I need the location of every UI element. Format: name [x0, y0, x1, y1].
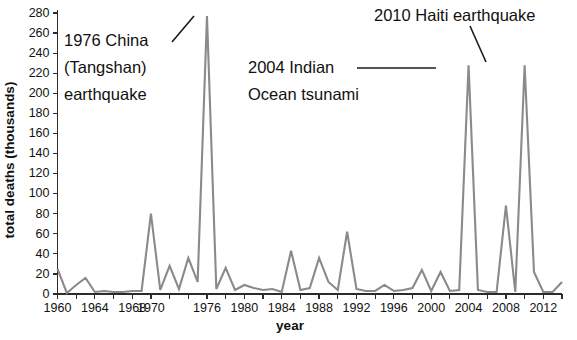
- x-axis-tick-label: 1976: [193, 301, 221, 315]
- x-axis-tick-label: 1992: [343, 301, 371, 315]
- annotation-china-1976: 1976 China (Tangshan) earthquake: [64, 16, 194, 103]
- y-axis-title: total deaths (thousands): [2, 82, 17, 239]
- x-axis-tick-label: 1980: [230, 301, 258, 315]
- y-axis-tick-label: 100: [29, 186, 50, 200]
- annotation-haiti-leader-line: [470, 26, 486, 62]
- annotation-haiti-2010: 2010 Haiti earthquake: [374, 6, 535, 62]
- x-axis-tick-label: 1960: [44, 301, 72, 315]
- x-axis-tick-label: 2012: [529, 301, 557, 315]
- y-axis-tick-label: 140: [29, 146, 50, 160]
- y-axis-tick-label: 60: [36, 227, 50, 241]
- x-axis-title: year: [276, 318, 305, 333]
- y-axis-tick-label: 240: [29, 46, 50, 60]
- y-axis-tick-label: 120: [29, 166, 50, 180]
- x-axis-tick-label: 1984: [268, 301, 296, 315]
- annotation-haiti-line-1: 2010 Haiti earthquake: [374, 6, 535, 24]
- y-axis-tick-label: 80: [36, 207, 50, 221]
- y-axis-tick-label: 180: [29, 106, 50, 120]
- annotation-china-leader-line: [172, 16, 194, 42]
- annotation-china-line-3: earthquake: [64, 85, 147, 103]
- annotation-china-line-1: 1976 China: [64, 31, 149, 49]
- x-axis-tick-label: 1964: [81, 301, 109, 315]
- annotation-tsunami-line-1: 2004 Indian: [248, 58, 334, 76]
- y-axis-tick-label: 200: [29, 86, 50, 100]
- y-axis-tick-label: 260: [29, 26, 50, 40]
- x-axis-tick-label: 2000: [417, 301, 445, 315]
- y-axis-tick-label: 220: [29, 66, 50, 80]
- deaths-by-year-line-chart: 020406080100120140160180200220240260280 …: [0, 0, 577, 340]
- x-axis-tick-label: 2004: [455, 301, 483, 315]
- y-axis-tick-label: 40: [36, 247, 50, 261]
- chart-figure: 020406080100120140160180200220240260280 …: [0, 0, 577, 340]
- y-axis-tick-label: 0: [43, 287, 50, 301]
- x-axis-tick-label: 1996: [380, 301, 408, 315]
- y-axis-tick-labels: 020406080100120140160180200220240260280: [29, 6, 50, 301]
- y-axis-tick-label: 280: [29, 6, 50, 20]
- annotation-tsunami-line-2: Ocean tsunami: [248, 85, 359, 103]
- annotation-china-line-2: (Tangshan): [64, 58, 147, 76]
- x-axis-tick-label: 1988: [305, 301, 333, 315]
- y-axis-tick-label: 20: [36, 267, 50, 281]
- y-axis-tick-label: 160: [29, 126, 50, 140]
- x-axis-tick-labels: 1960196419681970197619801984198819921996…: [44, 301, 558, 315]
- x-axis-tick-label: 2008: [492, 301, 520, 315]
- x-axis-tick-label: 1970: [137, 301, 165, 315]
- annotation-indian-ocean-2004: 2004 Indian Ocean tsunami: [248, 58, 436, 103]
